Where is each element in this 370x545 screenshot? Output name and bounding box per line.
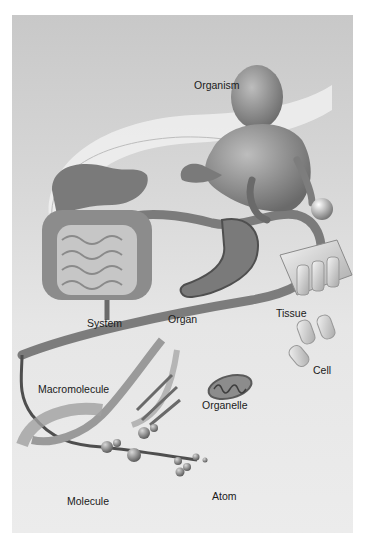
label-organ: Organ [168,313,197,325]
label-atom: Atom [212,490,237,502]
label-system: System [87,317,122,329]
organization-illustration [12,15,353,533]
cells [287,313,337,369]
label-macromolecule: Macromolecule [38,383,109,395]
label-tissue: Tissue [276,307,307,319]
label-cell: Cell [313,364,331,376]
label-organelle: Organelle [202,399,248,411]
label-molecule: Molecule [67,495,109,507]
diagram-panel: Organism System Organ Tissue Cell Organe… [12,15,353,533]
molecules [101,424,158,462]
system-digestive [42,164,152,320]
label-organism: Organism [194,79,240,91]
organ-stomach [181,219,258,297]
